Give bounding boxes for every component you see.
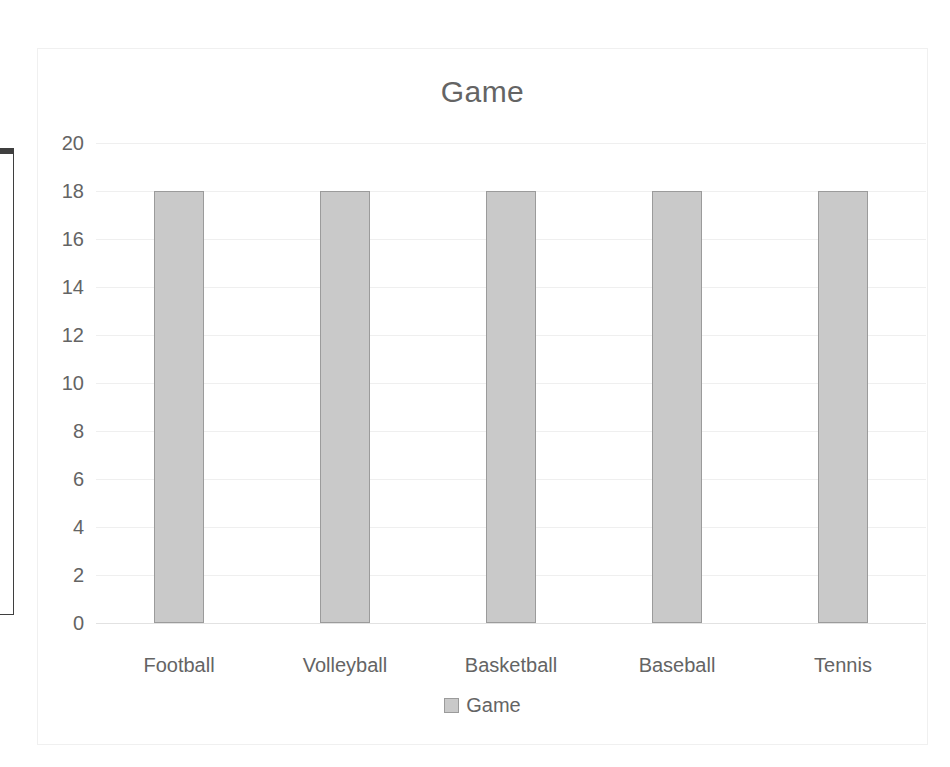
x-axis-line: [96, 623, 926, 624]
x-axis-labels: FootballVolleyballBasketballBaseballTenn…: [96, 645, 926, 685]
y-axis-tick-label: 20: [62, 132, 84, 155]
y-axis-tick-label: 10: [62, 372, 84, 395]
y-axis-tick-label: 4: [73, 516, 84, 539]
y-axis-tick-label: 16: [62, 228, 84, 251]
x-axis-tick-label-football: Football: [96, 645, 262, 685]
bar-tennis[interactable]: [818, 191, 868, 623]
y-axis-tick-label: 2: [73, 564, 84, 587]
x-axis-tick-label-basketball: Basketball: [428, 645, 594, 685]
y-axis-tick-label: 8: [73, 420, 84, 443]
y-axis-tick-label: 0: [73, 612, 84, 635]
x-axis-tick-label-volleyball: Volleyball: [262, 645, 428, 685]
table-row[interactable]: [0, 153, 13, 154]
bar-football[interactable]: [154, 191, 204, 623]
y-axis-tick-label: 14: [62, 276, 84, 299]
chart-container[interactable]: Game 20181614121086420 FootballVolleybal…: [37, 48, 928, 745]
y-axis-tick-label: 6: [73, 468, 84, 491]
legend-label: Game: [466, 694, 520, 717]
chart-title: Game: [38, 75, 927, 109]
x-axis-tick-label-baseball: Baseball: [594, 645, 760, 685]
plot-area: 20181614121086420: [96, 143, 926, 623]
bar-baseball[interactable]: [652, 191, 702, 623]
y-axis-tick-label: 12: [62, 324, 84, 347]
gridline: [96, 143, 926, 144]
y-axis-tick-label: 18: [62, 180, 84, 203]
bar-basketball[interactable]: [486, 191, 536, 623]
legend-swatch-icon: [444, 698, 459, 713]
x-axis-tick-label-tennis: Tennis: [760, 645, 926, 685]
bar-volleyball[interactable]: [320, 191, 370, 623]
spreadsheet-fragment[interactable]: [0, 148, 14, 615]
chart-legend[interactable]: Game: [38, 694, 927, 717]
